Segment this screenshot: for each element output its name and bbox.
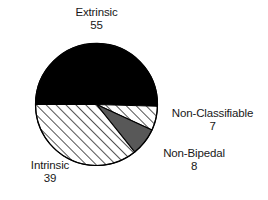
pie-label-extrinsic-value: 55 (0, 19, 193, 32)
pie-label-non-bipedal-name: Non-Bipedal (142, 147, 246, 160)
pie-chart-figure: Extrinsic 55 Non-Classifiable 7 Non-Bipe… (0, 0, 268, 200)
pie-label-extrinsic-name: Extrinsic (0, 6, 193, 19)
pie-slice-extrinsic (35, 43, 157, 106)
pie-label-intrinsic-name: Intrinsic (2, 159, 98, 172)
pie-label-non-bipedal: Non-Bipedal 8 (142, 147, 246, 173)
pie-label-extrinsic: Extrinsic 55 (0, 6, 193, 32)
pie-label-non-classifiable-name: Non-Classifiable (157, 107, 268, 120)
pie-label-non-classifiable-value: 7 (157, 120, 268, 133)
pie-label-intrinsic-value: 39 (2, 172, 98, 185)
pie-label-intrinsic: Intrinsic 39 (2, 159, 98, 185)
pie-label-non-classifiable: Non-Classifiable 7 (157, 107, 268, 133)
pie-label-non-bipedal-value: 8 (142, 160, 246, 173)
